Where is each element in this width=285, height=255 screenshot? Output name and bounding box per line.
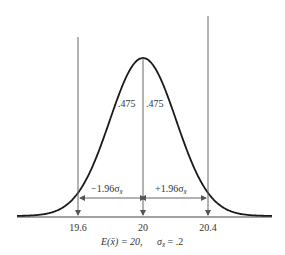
tick-label-center: 20: [138, 222, 148, 233]
left-interval-label: −1.96σx̄: [91, 183, 124, 196]
caption: E(x̄) = 20, σx̄ = .2: [100, 236, 183, 249]
right-area-label: .475: [146, 98, 164, 109]
tick-label-left: 19.6: [69, 222, 87, 233]
right-interval-label: +1.96σx̄: [155, 183, 188, 196]
normal-distribution-diagram: .475 .475 −1.96σx̄ +1.96σx̄ 19.6 20 20.4…: [0, 0, 285, 255]
tick-label-right: 20.4: [199, 222, 217, 233]
left-area-label: .475: [118, 98, 136, 109]
bell-curve: [17, 58, 272, 216]
